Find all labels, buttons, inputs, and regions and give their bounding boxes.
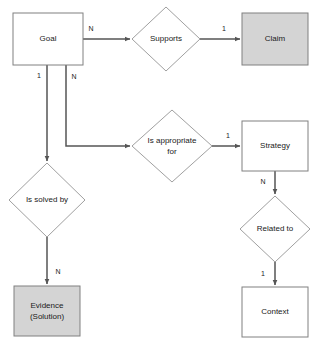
entity-claim[interactable]: Claim [242,13,308,65]
relationship-shape-is-appropriate-for [132,110,212,182]
entity-shape-evidence [14,286,80,336]
cardinality-label-strategy-to-related-to: N [260,178,265,185]
relationship-label-is-solved-by: Is solved by [26,195,68,204]
relationship-supports[interactable]: Supports [132,7,200,71]
relationship-label2-is-appropriate-for: for [167,147,177,156]
relationship-label-supports: Supports [150,34,182,43]
relationship-label-related-to: Related to [257,224,294,233]
cardinality-label-goal-to-supports: N [88,25,93,32]
cardinality-label-is-appropriate-for-to-strategy: 1 [226,132,230,139]
relationship-related-to[interactable]: Related to [240,196,310,262]
er-diagram-canvas: GoalClaimStrategyEvidence(Solution)Conte… [0,0,318,347]
cardinality-label-related-to-to-context: 1 [261,270,265,277]
cardinality-label-supports-to-claim: 1 [222,25,226,32]
cardinality-label-goal-to-is-solved-by: 1 [37,72,41,79]
er-diagram-svg: GoalClaimStrategyEvidence(Solution)Conte… [0,0,318,347]
entity-evidence[interactable]: Evidence(Solution) [14,286,80,336]
relationship-is-solved-by[interactable]: Is solved by [9,163,85,237]
nodes-layer: GoalClaimStrategyEvidence(Solution)Conte… [9,7,310,337]
entity-label2-evidence: (Solution) [30,312,65,321]
entity-context[interactable]: Context [242,287,308,337]
relationship-label-is-appropriate-for: Is appropriate [148,136,197,145]
entity-label-goal: Goal [40,34,57,43]
entity-label-evidence: Evidence [31,301,64,310]
entity-label-context: Context [261,307,289,316]
entity-label-claim: Claim [265,34,286,43]
entity-goal[interactable]: Goal [13,13,83,65]
relationship-is-appropriate-for[interactable]: Is appropriatefor [132,110,212,182]
entity-strategy[interactable]: Strategy [242,121,308,171]
cardinality-label-goal-to-is-appropriate-for: N [71,73,76,80]
cardinality-label-is-solved-by-to-evidence: N [55,268,60,275]
entity-label-strategy: Strategy [260,141,290,150]
